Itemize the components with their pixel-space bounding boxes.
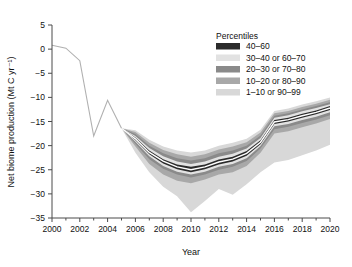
legend-swatch [216,89,240,96]
historical-polyline [52,45,122,136]
y-tick-label: −30 [31,189,46,199]
chart-container: 2000200220042006200820102012201420162018… [0,0,352,267]
x-axis-ticks: 2000200220042006200820102012201420162018… [43,218,340,234]
legend-swatch [216,66,240,73]
legend-item-label: 20–30 or 70–80 [246,64,306,74]
legend-item-label: 40–60 [246,41,270,51]
y-tick-label: 0 [40,44,45,54]
x-tick-label: 2018 [293,224,312,234]
legend-item-label: 10–20 or 80–90 [246,76,306,86]
legend-items: 40–6030–40 or 60–7020–30 or 70–8010–20 o… [216,41,306,97]
x-tick-label: 2016 [265,224,284,234]
x-tick-label: 2020 [321,224,340,234]
x-axis-title: Year [182,247,200,257]
x-tick-label: 2000 [43,224,62,234]
net-biome-production-chart: 2000200220042006200820102012201420162018… [0,0,352,267]
x-tick-label: 2006 [126,224,145,234]
y-tick-label: −20 [31,141,46,151]
y-axis-ticks: 50−5−10−15−20−25−30−35 [31,20,52,223]
legend-item-label: 1–10 or 90–99 [246,87,301,97]
x-tick-label: 2010 [182,224,201,234]
legend-swatch [216,43,240,50]
x-tick-label: 2002 [70,224,89,234]
legend-item-label: 30–40 or 60–70 [246,53,306,63]
y-axis-title: Net biome production (Mt C yr⁻¹) [6,56,16,187]
historical-line [52,45,122,136]
x-tick-label: 2008 [154,224,173,234]
y-tick-label: −10 [31,92,46,102]
legend-swatch [216,55,240,62]
y-tick-label: 5 [40,20,45,30]
y-tick-label: −15 [31,117,46,127]
x-tick-label: 2012 [209,224,228,234]
y-tick-label: −25 [31,165,46,175]
legend-title: Percentiles [216,31,258,41]
x-tick-label: 2004 [98,224,117,234]
y-tick-label: −35 [31,213,46,223]
y-tick-label: −5 [35,68,45,78]
x-tick-label: 2014 [237,224,256,234]
legend: Percentiles 40–6030–40 or 60–7020–30 or … [216,31,306,97]
legend-swatch [216,78,240,85]
